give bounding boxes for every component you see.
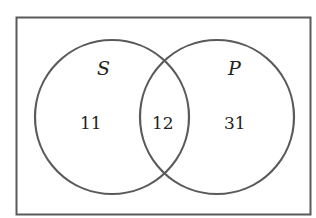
set-p-label: P	[227, 57, 242, 79]
intersection-count: 12	[152, 113, 174, 133]
p-only-count: 31	[224, 113, 246, 133]
s-only-count: 11	[80, 113, 102, 133]
set-s-label: S	[97, 57, 110, 79]
venn-diagram: S P 11 12 31	[0, 0, 316, 218]
